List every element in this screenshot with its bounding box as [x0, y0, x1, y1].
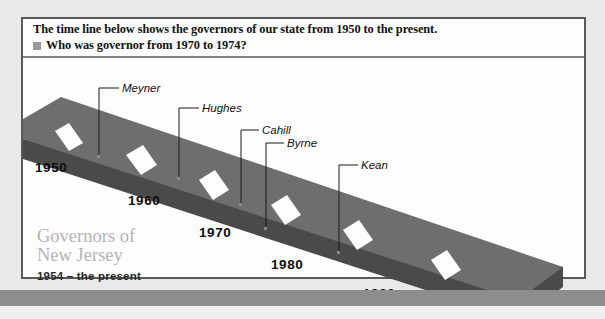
- square-bullet-icon: [33, 42, 41, 50]
- caption-title-line2: New Jersey: [37, 246, 237, 265]
- name-label-meyner: Meyner: [122, 82, 160, 94]
- name-label-byrne: Byrne: [287, 137, 317, 149]
- year-label-1960: 1960: [128, 193, 160, 208]
- name-label-kean: Kean: [361, 159, 388, 171]
- figure-root: The time line below shows the governors …: [0, 0, 605, 319]
- figure-panel: The time line below shows the governors …: [23, 19, 584, 277]
- caption-title-line1: Governors of: [37, 227, 237, 246]
- year-label-1980: 1980: [271, 257, 303, 272]
- name-label-hughes: Hughes: [202, 102, 242, 114]
- caption-subtitle: 1954 – the present: [37, 270, 237, 282]
- page-bottom-strip: [0, 306, 605, 319]
- page-bottom-bar: [0, 290, 605, 306]
- timeline-chart: 1950 1960 1970 1980 1990 Meyner Hughes C…: [23, 59, 584, 277]
- page-margin-top: [0, 0, 605, 18]
- header-statement: The time line below shows the governors …: [33, 22, 437, 37]
- year-label-1950: 1950: [35, 160, 67, 175]
- header-block: The time line below shows the governors …: [23, 19, 584, 57]
- page-margin-right: [588, 0, 605, 290]
- header-question-row: Who was governor from 1970 to 1974?: [33, 38, 246, 53]
- page-margin-left: [0, 0, 22, 319]
- header-question: Who was governor from 1970 to 1974?: [46, 38, 246, 53]
- name-label-cahill: Cahill: [262, 124, 291, 136]
- chart-caption: Governors of New Jersey 1954 – the prese…: [37, 227, 237, 282]
